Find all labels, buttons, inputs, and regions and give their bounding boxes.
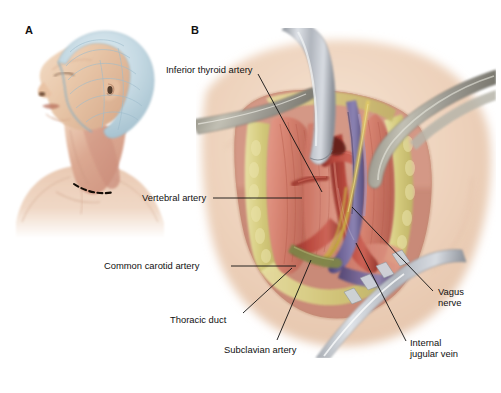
label-vagus-nerve-line1: Vagus [438,286,464,297]
label-internal-jugular-vein: Internal jugular vein [410,337,458,359]
panel-b-illustration [196,28,496,358]
medical-figure: A [0,0,501,393]
panel-a-illustration [8,18,178,238]
panel-b-surgical-exposure [196,28,496,358]
label-inferior-thyroid-artery: Inferior thyroid artery [166,64,253,75]
label-internal-jugular-vein-line2: jugular vein [410,348,458,359]
label-internal-jugular-vein-line1: Internal [410,337,458,348]
label-common-carotid-artery: Common carotid artery [104,260,199,271]
label-vagus-nerve-line2: nerve [438,297,464,308]
panel-a-patient-positioning [8,18,178,238]
label-vagus-nerve: Vagus nerve [438,286,464,308]
label-thoracic-duct: Thoracic duct [170,314,226,325]
label-vertebral-artery: Vertebral artery [142,192,206,203]
label-subclavian-artery: Subclavian artery [224,344,296,355]
